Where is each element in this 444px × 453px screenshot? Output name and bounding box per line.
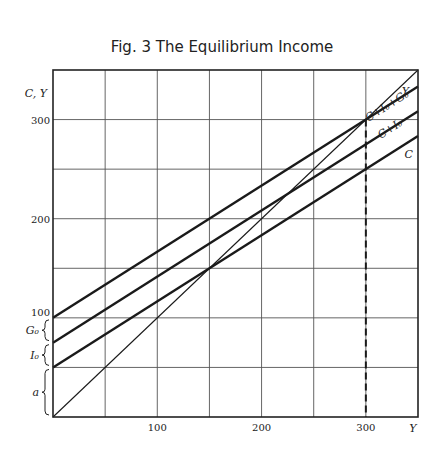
brace-label: G₀	[26, 324, 40, 337]
x-tick-label: 300	[356, 422, 375, 433]
series-line-c	[53, 136, 418, 367]
series-line-c-i0-g0	[53, 87, 418, 318]
brace-annotations: aI₀G₀	[26, 320, 49, 415]
brace-label: I₀	[29, 349, 39, 362]
y-tick-label: 100	[31, 307, 50, 318]
y-tick-label: 300	[31, 115, 50, 126]
series-label: C	[404, 148, 413, 161]
series-labels: YC+I₀+G₀C+I₀C	[363, 85, 414, 161]
brace-icon	[42, 345, 49, 366]
y-axis-label: C, Y	[25, 87, 49, 100]
chart: Fig. 3 The Equilibrium Income YC+I₀+G₀C+…	[0, 0, 444, 453]
x-axis-label: Y	[409, 422, 418, 435]
x-tick-label: 100	[148, 422, 167, 433]
brace-label: a	[32, 386, 39, 399]
y-tick-label: 200	[31, 214, 50, 225]
brace-icon	[42, 369, 49, 415]
chart-title: Fig. 3 The Equilibrium Income	[111, 38, 334, 56]
series-line-c-i0	[53, 111, 418, 342]
brace-icon	[42, 320, 49, 341]
x-tick-label: 200	[252, 422, 271, 433]
series-lines	[53, 70, 418, 417]
